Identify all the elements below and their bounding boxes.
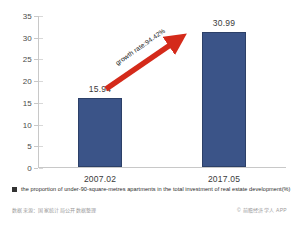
x-tick-label: 2017.05: [208, 174, 240, 184]
legend-label: the proportion of under-90-square-metres…: [21, 186, 291, 192]
x-axis-line: [38, 167, 286, 168]
y-tick-mark: [34, 168, 38, 169]
y-tick-mark-inner: [39, 38, 43, 39]
y-tick-label: 10: [23, 120, 32, 129]
y-tick-mark: [34, 16, 38, 17]
y-tick-mark-inner: [39, 16, 43, 17]
y-tick-mark-inner: [39, 81, 43, 82]
footer-source-left: 数据来源：国家统计局公开数据整理: [12, 206, 97, 213]
y-tick-mark: [34, 81, 38, 82]
y-tick-mark: [34, 125, 38, 126]
x-tick-label: 2007.02: [84, 174, 116, 184]
y-tick-label: 20: [23, 77, 32, 86]
y-tick-label: 0: [27, 164, 32, 173]
y-tick-mark-inner: [39, 168, 43, 169]
legend: the proportion of under-90-square-metres…: [12, 186, 291, 192]
y-tick-label: 35: [23, 12, 32, 21]
bar-value-label: 30.99: [213, 18, 235, 28]
footer-source-right: © 前瞻经济学人 APP: [237, 206, 287, 213]
bar: [78, 98, 122, 167]
y-axis-line: [38, 16, 39, 168]
y-tick-mark: [34, 38, 38, 39]
y-tick-mark: [34, 103, 38, 104]
y-tick-mark-inner: [39, 59, 43, 60]
y-tick-mark-inner: [39, 125, 43, 126]
bar-value-label: 15.94: [89, 84, 111, 94]
y-tick-label: 25: [23, 55, 32, 64]
y-tick-label: 30: [23, 33, 32, 42]
legend-swatch-icon: [12, 187, 17, 192]
y-tick-label: 15: [23, 98, 32, 107]
y-tick-mark-inner: [39, 103, 43, 104]
y-tick-mark-inner: [39, 146, 43, 147]
plot-area: 05101520253035 15.9430.99: [38, 16, 286, 168]
bar: [202, 32, 246, 167]
y-tick-mark: [34, 146, 38, 147]
bar-chart-figure: 05101520253035 15.9430.99 2007.022017.05…: [0, 0, 297, 225]
y-tick-label: 5: [27, 142, 32, 151]
y-tick-mark: [34, 59, 38, 60]
